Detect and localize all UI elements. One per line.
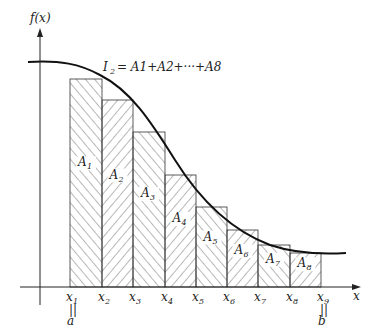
svg-text:7: 7 bbox=[261, 297, 267, 306]
y-axis-label: f(x) bbox=[29, 11, 51, 25]
area-rect-5 bbox=[196, 207, 227, 287]
svg-text:1: 1 bbox=[87, 162, 92, 171]
area-label: A bbox=[172, 211, 182, 225]
area-rect-4 bbox=[165, 175, 196, 287]
svg-text:I: I bbox=[102, 60, 108, 74]
svg-text:6: 6 bbox=[230, 297, 235, 306]
svg-text:= A1+A2+···+A8: = A1+A2+···+A8 bbox=[117, 60, 222, 74]
svg-text:4: 4 bbox=[167, 297, 173, 306]
partition-label: x bbox=[161, 290, 168, 304]
svg-text:2: 2 bbox=[104, 297, 110, 306]
svg-text:6: 6 bbox=[244, 250, 249, 259]
x-axis-label: x bbox=[353, 289, 360, 303]
svg-text:4: 4 bbox=[181, 218, 187, 227]
svg-text:5: 5 bbox=[213, 237, 218, 246]
area-label: A bbox=[140, 186, 150, 200]
svg-text:5: 5 bbox=[199, 297, 204, 306]
partition-label: x bbox=[66, 290, 73, 304]
svg-text:3: 3 bbox=[136, 297, 141, 306]
area-rect-2 bbox=[102, 100, 133, 287]
bound-b: b bbox=[318, 314, 326, 328]
partition-label: x bbox=[286, 290, 293, 304]
area-label: A bbox=[77, 155, 87, 169]
area-label: A bbox=[234, 243, 244, 257]
area-label: A bbox=[109, 168, 119, 182]
svg-text:8: 8 bbox=[293, 297, 298, 306]
partition-label: x bbox=[98, 290, 105, 304]
bound-a: a bbox=[67, 314, 74, 328]
partition-label: x bbox=[223, 290, 230, 304]
svg-text:8: 8 bbox=[307, 263, 312, 272]
partition-label: x bbox=[254, 290, 261, 304]
area-label: A bbox=[297, 256, 307, 270]
riemann-sum-diagram: A1A2A3A4A5A6A7A8 f(x) x I 2 = A1+A2+···+… bbox=[0, 0, 370, 335]
y-axis-arrow-icon bbox=[37, 28, 43, 37]
svg-text:2: 2 bbox=[118, 175, 124, 184]
partition-label: x bbox=[317, 290, 324, 304]
area-label: A bbox=[203, 230, 213, 244]
svg-text:2: 2 bbox=[109, 67, 115, 76]
partition-label: x bbox=[192, 290, 199, 304]
area-rect-1 bbox=[70, 79, 102, 287]
partition-label: x bbox=[129, 290, 136, 304]
svg-text:3: 3 bbox=[150, 193, 155, 202]
partition-labels: x1x2x3x4x5x6x7x8x9 bbox=[66, 290, 329, 306]
area-rect-3 bbox=[133, 132, 165, 287]
area-label: A bbox=[265, 252, 275, 266]
rectangles: A1A2A3A4A5A6A7A8 bbox=[70, 79, 321, 287]
formula: I 2 = A1+A2+···+A8 bbox=[102, 60, 222, 76]
